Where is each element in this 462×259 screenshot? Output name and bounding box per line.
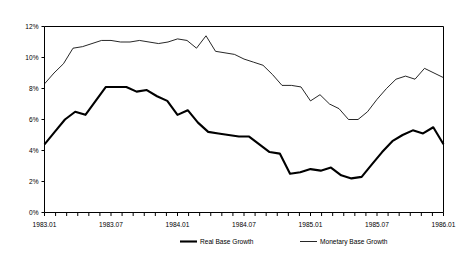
plot-frame	[45, 27, 444, 213]
y-tick-label: 12%	[25, 23, 38, 30]
series-line-monetary-base-growth	[45, 36, 444, 120]
series-line-real-base-growth	[45, 87, 444, 178]
chart-container: 0%2%4%6%8%10%12% 1983.011983.071984.0119…	[0, 0, 462, 259]
x-tick-label: 1985.01	[299, 221, 323, 228]
chart-legend: Real Base GrowthMonetary Base Growth	[180, 238, 388, 246]
y-tick-label: 10%	[25, 54, 38, 61]
y-axis-labels: 0%2%4%6%8%10%12%	[25, 23, 38, 216]
data-series-layer	[45, 36, 444, 179]
x-axis-labels: 1983.011983.071984.011984.071985.011985.…	[33, 221, 456, 228]
x-tick-label: 1985.07	[365, 221, 389, 228]
x-tick-label: 1983.01	[33, 221, 57, 228]
x-tick-label: 1984.01	[166, 221, 190, 228]
y-tick-label: 0%	[29, 209, 39, 216]
y-tick-label: 4%	[29, 147, 39, 154]
y-tick-label: 2%	[29, 178, 39, 185]
y-tick-label: 8%	[29, 85, 39, 92]
axis-frame	[45, 27, 444, 213]
x-tick-label: 1986.01	[432, 221, 456, 228]
legend-label: Monetary Base Growth	[320, 238, 388, 246]
x-axis-ticks	[45, 213, 444, 217]
legend-label: Real Base Growth	[200, 238, 254, 245]
x-tick-label: 1984.07	[232, 221, 256, 228]
x-tick-label: 1983.07	[99, 221, 123, 228]
line-chart: 0%2%4%6%8%10%12% 1983.011983.071984.0119…	[0, 0, 462, 259]
y-tick-label: 6%	[29, 116, 39, 123]
